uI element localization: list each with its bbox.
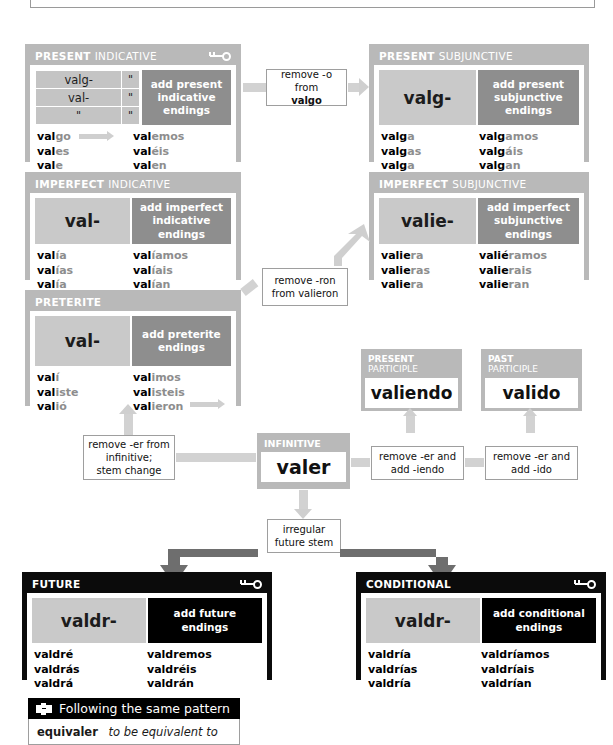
endings-text: add future endings	[174, 607, 237, 633]
card-conditional-header: CONDITIONAL	[361, 577, 601, 593]
pattern-section-body: equivaler to be equivalent to	[28, 719, 240, 745]
card-present-subjunctive: PRESENT SUBJUNCTIVE valg- add present su…	[369, 44, 589, 162]
card-present-participle: PRESENT PARTICIPLE valiendo	[361, 349, 462, 411]
conj-form: valemos	[133, 130, 229, 145]
conj-form: valiéramos	[479, 249, 577, 264]
card-infinitive: INFINITIVE valer	[257, 433, 350, 489]
title-light: PARTICIPLE	[368, 364, 455, 374]
conj-form: valdrían	[481, 677, 594, 692]
stem-grid: valg- " val- " " " add present indicativ…	[35, 70, 231, 125]
stem-box: valie-	[379, 198, 476, 244]
grid-cell: "	[122, 71, 140, 89]
grid-cell: valg-	[36, 71, 122, 89]
note-line-2: add -iendo	[391, 463, 444, 476]
stem-box: valg-	[379, 70, 476, 125]
conjugation-list-future: valdré valdrás valdrá valdremos valdréis…	[32, 647, 262, 692]
note-line-1: remove -o from	[271, 68, 342, 94]
note-line-2: valgo	[291, 94, 322, 107]
card-imperfect-subjunctive: IMPERFECT SUBJUNCTIVE valie- add imperfe…	[369, 172, 589, 280]
arrow-infinitive-to-iendo	[351, 458, 370, 467]
conj-form: valdremos	[147, 648, 260, 663]
present-participle-value: valiendo	[365, 378, 458, 408]
card-preterite: PRETERITE val- add preterite endings val…	[25, 290, 241, 406]
conj-form: valiera	[381, 249, 479, 264]
card-preterite-header: PRETERITE	[30, 295, 236, 311]
card-imperfect-subjunctive-body: valie- add imperfect subjunctive endings…	[374, 193, 584, 298]
conj-form: valga	[381, 130, 479, 145]
note-stem-change: remove -er from infinitive; stem change	[83, 435, 175, 480]
card-future-header: FUTURE	[27, 577, 267, 593]
note-line-1: remove -er and	[379, 450, 456, 463]
conj-form: valdría	[368, 677, 481, 692]
arrow-iendo-to-ido	[465, 458, 484, 467]
card-past-participle: PAST PARTICIPLE valido	[481, 349, 582, 411]
flow-arrow-inline	[190, 402, 218, 407]
endings-label: add future endings	[148, 598, 262, 643]
stem-text: val-	[65, 211, 100, 231]
title-light: SUBJUNCTIVE	[452, 178, 526, 190]
note-remove-o: remove -o from valgo	[266, 69, 347, 106]
endings-text: add imperfect subjunctive endings	[487, 201, 570, 240]
note-line-2: future stem	[275, 536, 333, 549]
endings-text: add present indicative endings	[151, 78, 222, 117]
endings-text: add preterite endings	[142, 328, 221, 354]
conjugation-list-imperfect-subjunctive: valiera valieras valiera valiéramos vali…	[379, 248, 579, 293]
stem-text: valg-	[404, 88, 452, 108]
card-future-body: valdr- add future endings valdré valdrás…	[27, 593, 267, 697]
note-add-iendo: remove -er and add -iendo	[371, 446, 464, 480]
title-strong: FUTURE	[32, 578, 80, 590]
card-present-subjunctive-body: valg- add present subjunctive endings va…	[374, 65, 584, 179]
grid-cell: "	[122, 89, 140, 107]
title-strong: CONDITIONAL	[366, 578, 451, 590]
endings-label: add preterite endings	[132, 316, 231, 366]
note-line-3: stem change	[96, 464, 161, 477]
conj-form: valías	[37, 264, 133, 279]
endings-label: add present indicative endings	[142, 70, 231, 125]
title-strong: IMPERFECT	[379, 178, 448, 190]
key-icon	[209, 52, 231, 61]
stem-text: valie-	[401, 211, 454, 231]
grid-cell: "	[122, 107, 140, 125]
card-present-indicative: PRESENT INDICATIVE valg- " val- " " "	[25, 44, 241, 162]
arrow-infinitive-to-stem-change	[176, 453, 256, 462]
title-strong: PRESENT	[368, 354, 455, 364]
card-infinitive-header: INFINITIVE	[261, 437, 346, 452]
conj-form: valdrías	[368, 663, 481, 678]
conj-form: valdréis	[147, 663, 260, 678]
card-present-indicative-title: PRESENT INDICATIVE	[35, 50, 157, 62]
conj-form: valierais	[479, 264, 577, 279]
arrow-note-to-imperfect-subjunctive	[330, 222, 376, 270]
card-imperfect-subjunctive-header: IMPERFECT SUBJUNCTIVE	[374, 177, 584, 193]
conj-form: valieran	[479, 278, 577, 293]
grid-cell: "	[36, 107, 122, 125]
pattern-entry-word: equivaler	[37, 725, 98, 739]
note-line-2: add -ido	[511, 463, 552, 476]
stem-text: val-	[65, 331, 100, 351]
conjugation-list-conditional: valdría valdrías valdría valdríamos vald…	[366, 647, 596, 692]
key-icon	[574, 580, 596, 589]
endings-label: add present subjunctive endings	[478, 70, 579, 125]
conj-form: valía	[37, 249, 133, 264]
title-light: INDICATIVE	[95, 50, 157, 62]
card-imperfect-indicative-header: IMPERFECT INDICATIVE	[30, 177, 236, 193]
stem-box: val-	[35, 316, 130, 366]
note-add-ido: remove -er and add -ido	[485, 446, 578, 480]
conjugation-list-present-indicative: valgo vales vale valemos valéis valen	[35, 129, 231, 174]
infinitive-value: valer	[261, 452, 346, 482]
endings-label: add imperfect subjunctive endings	[478, 198, 579, 244]
grid-cell: val-	[36, 89, 122, 107]
title-strong: PRESENT	[35, 50, 91, 62]
card-present-participle-header: PRESENT PARTICIPLE	[365, 353, 458, 378]
card-conditional: CONDITIONAL valdr- add conditional endin…	[356, 572, 606, 680]
pattern-heading-text: Following the same pattern	[59, 701, 230, 716]
conj-form: valdría	[368, 648, 481, 663]
conj-form: valíais	[133, 264, 229, 279]
pattern-entry-meaning: to be equivalent to	[109, 725, 218, 739]
stem-box: valdr-	[32, 598, 146, 643]
endings-label: add conditional endings	[482, 598, 596, 643]
past-participle-value: valido	[485, 378, 578, 408]
title-strong: PRETERITE	[35, 296, 101, 308]
conj-form: valdríamos	[481, 648, 594, 663]
conj-form: valgáis	[479, 145, 577, 160]
conj-form: valiera	[381, 278, 479, 293]
